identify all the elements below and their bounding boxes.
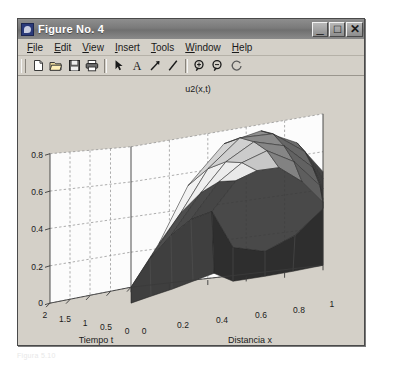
surface-plot: 0.8 0.6 0.4 0.2 0 2 1.5 1 0.5 [18, 76, 364, 345]
window-title: Figure No. 4 [38, 23, 311, 35]
x-tick-label: 0.8 [293, 305, 305, 315]
z-tick-label: 0.8 [31, 150, 43, 160]
menu-bar: File Edit View Insert Tools Window Help [18, 39, 364, 56]
x-tick-label: 1 [330, 299, 335, 309]
menu-item-window[interactable]: Window [180, 41, 227, 54]
plot-title: u2(x,t) [185, 84, 210, 94]
x-tick-label: 0.2 [177, 320, 189, 330]
menu-item-tools[interactable]: Tools [146, 41, 180, 54]
close-glyph: ✕ [347, 23, 362, 36]
new-figure-icon[interactable] [29, 57, 47, 74]
svg-text:A: A [133, 59, 142, 72]
save-figure-icon[interactable] [65, 57, 83, 74]
minimize-button[interactable]: _ [312, 22, 328, 37]
plot-canvas[interactable]: 0.8 0.6 0.4 0.2 0 2 1.5 1 0.5 [18, 76, 364, 345]
toolbar-separator [104, 59, 107, 73]
menu-label-view: iew [89, 42, 104, 53]
menu-item-edit[interactable]: Edit [49, 41, 77, 54]
x-axis-label: Distancia x [228, 335, 272, 345]
menu-item-insert[interactable]: Insert [110, 41, 146, 54]
open-file-icon[interactable] [47, 57, 65, 74]
toolbar: A [18, 56, 364, 76]
figure-caption: Figura 5.10 [17, 352, 56, 359]
y-tick-label: 0 [125, 326, 130, 336]
menu-item-file[interactable]: File [22, 41, 49, 54]
menu-item-view[interactable]: View [77, 41, 110, 54]
minimize-glyph: _ [313, 23, 327, 36]
toolbar-grip[interactable] [21, 59, 26, 73]
y-tick-label: 1 [83, 318, 88, 328]
zoom-out-icon[interactable] [209, 57, 227, 74]
menu-label-edit: dit [61, 42, 72, 53]
x-tick-label: 0.6 [255, 310, 267, 320]
y-tick-label: 0.5 [100, 322, 112, 332]
maximize-glyph: ☐ [330, 23, 344, 36]
menu-label-help: elp [239, 42, 252, 53]
zoom-in-icon[interactable] [191, 57, 209, 74]
print-figure-icon[interactable] [83, 57, 101, 74]
matlab-membrane-icon [21, 23, 34, 36]
pointer-icon[interactable] [110, 57, 128, 74]
menu-item-help[interactable]: Help [227, 41, 259, 54]
x-tick-label: 0 [142, 326, 147, 336]
close-button[interactable]: ✕ [346, 22, 363, 37]
line-tool-icon[interactable] [164, 57, 182, 74]
title-bar[interactable]: Figure No. 4 _ ☐ ✕ [18, 19, 364, 39]
x-tick-label: 0.4 [216, 315, 228, 325]
y-axis-label: Tiempo t [79, 335, 114, 345]
arrow-tool-icon[interactable] [146, 57, 164, 74]
menu-label-insert: nsert [118, 42, 140, 53]
z-tick-label: 0.2 [31, 262, 43, 272]
toolbar-separator [185, 59, 188, 73]
maximize-button[interactable]: ☐ [329, 22, 345, 37]
back-wall-left [50, 147, 131, 303]
menu-label-file: ile [33, 42, 43, 53]
figure-window: Figure No. 4 _ ☐ ✕ File Edit View Insert… [17, 18, 365, 346]
z-tick-label: 0.6 [31, 187, 43, 197]
rotate-3d-icon[interactable] [227, 57, 245, 74]
z-tick-label: 0.4 [31, 224, 43, 234]
text-tool-icon[interactable]: A [128, 57, 146, 74]
z-tick-label: 0 [38, 298, 43, 308]
y-tick-label: 2 [43, 310, 48, 320]
menu-label-window: indow [195, 42, 221, 53]
y-tick-label: 1.5 [59, 314, 71, 324]
menu-label-tools: ools [156, 42, 174, 53]
